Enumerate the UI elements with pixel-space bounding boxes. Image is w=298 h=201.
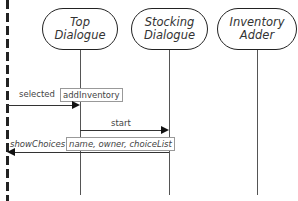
- message-selected-arrow: [7, 105, 72, 106]
- arrowhead-right-icon: [161, 126, 169, 134]
- participant-inventory-adder: Inventory Adder: [217, 8, 297, 50]
- actor-boundary-dashed-line: [6, 0, 9, 201]
- participant-top-dialogue: Top Dialogue: [42, 8, 118, 50]
- arrowhead-right-icon: [72, 101, 80, 109]
- participant-adder-line2: Adder: [230, 29, 285, 42]
- message-showchoices-arrow: [15, 152, 169, 153]
- message-selected-label: selected: [19, 89, 55, 99]
- lifeline-inventory-adder: [257, 50, 259, 195]
- lifeline-top-dialogue: [80, 50, 82, 195]
- participant-stocking-dialogue: Stocking Dialogue: [131, 8, 208, 50]
- message-start-label: start: [111, 118, 131, 128]
- message-selected-param: addInventory: [60, 88, 123, 102]
- message-showchoices-label: showChoices: [10, 139, 65, 149]
- participant-top-line2: Dialogue: [55, 29, 106, 42]
- message-showchoices-params: name, owner, choiceList: [66, 137, 175, 151]
- lifeline-stocking-dialogue: [169, 50, 171, 195]
- message-start-arrow: [80, 130, 161, 131]
- participant-stocking-line2: Dialogue: [144, 29, 195, 42]
- arrowhead-left-icon: [7, 148, 15, 156]
- sequence-diagram: Top Dialogue Stocking Dialogue Inventory…: [0, 0, 298, 201]
